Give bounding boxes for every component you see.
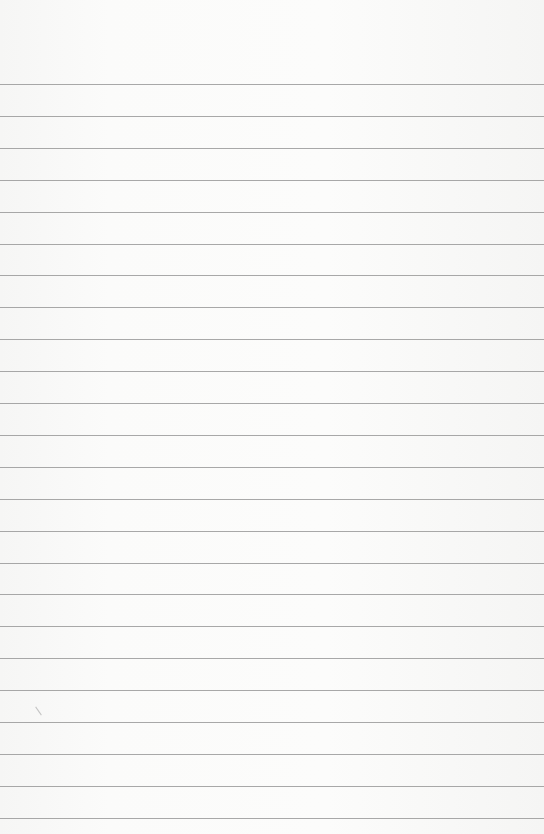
ruled-line: [0, 818, 544, 819]
ruled-line: [0, 116, 544, 117]
ruled-line: [0, 307, 544, 308]
pencil-mark: [35, 707, 42, 716]
ruled-line: [0, 722, 544, 723]
ruled-line: [0, 403, 544, 404]
ruled-line: [0, 148, 544, 149]
ruled-line: [0, 563, 544, 564]
ruled-line: [0, 690, 544, 691]
ruled-line: [0, 658, 544, 659]
ruled-line: [0, 594, 544, 595]
ruled-line: [0, 499, 544, 500]
ruled-line: [0, 84, 544, 85]
ruled-line: [0, 244, 544, 245]
ruled-line: [0, 626, 544, 627]
ruled-line: [0, 467, 544, 468]
ruled-line: [0, 754, 544, 755]
lined-paper: [0, 0, 544, 834]
ruled-line: [0, 531, 544, 532]
ruled-line: [0, 371, 544, 372]
ruled-line: [0, 786, 544, 787]
ruled-line: [0, 212, 544, 213]
ruled-line: [0, 180, 544, 181]
ruled-line: [0, 339, 544, 340]
ruled-line: [0, 275, 544, 276]
ruled-line: [0, 435, 544, 436]
